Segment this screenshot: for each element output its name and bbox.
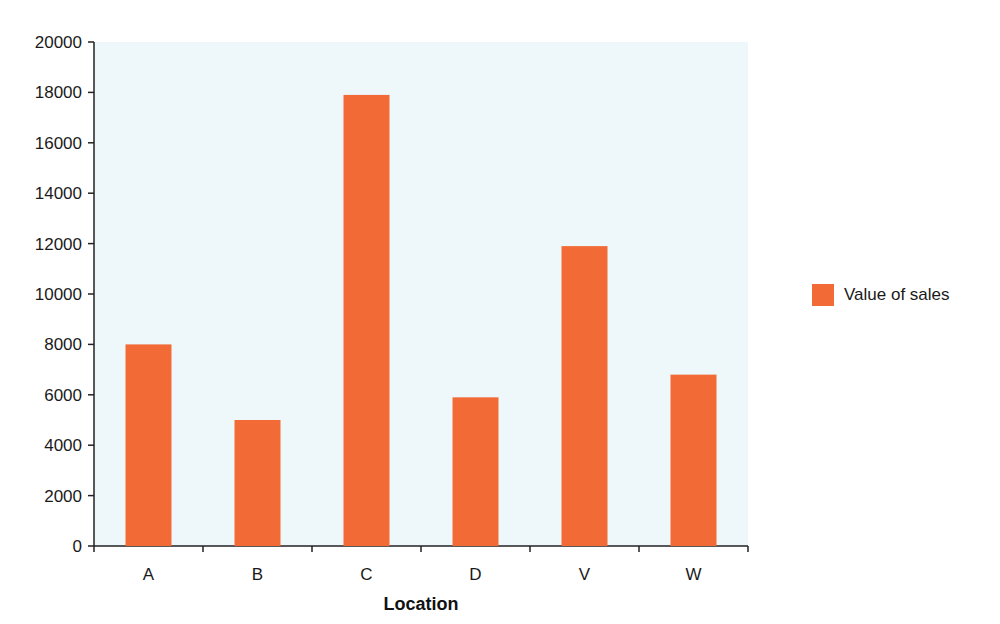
y-tick-label: 6000 [44, 386, 82, 405]
bar-w [671, 375, 717, 546]
x-tick-label: V [579, 565, 591, 584]
x-axis: ABCDVW [94, 546, 748, 584]
y-tick-label: 4000 [44, 436, 82, 455]
y-tick-label: 20000 [35, 33, 82, 52]
y-tick-label: 12000 [35, 235, 82, 254]
x-tick-label: B [252, 565, 263, 584]
y-tick-label: 14000 [35, 184, 82, 203]
bar-chart: 0200040006000800010000120001400016000180… [0, 0, 1000, 624]
bar-a [126, 344, 172, 546]
legend-swatch-value-of-sales [812, 284, 834, 306]
y-tick-label: 18000 [35, 83, 82, 102]
y-tick-label: 2000 [44, 487, 82, 506]
x-tick-label: C [360, 565, 372, 584]
y-tick-label: 16000 [35, 134, 82, 153]
bar-c [344, 95, 390, 546]
bar-v [562, 246, 608, 546]
y-tick-label: 8000 [44, 335, 82, 354]
bar-b [235, 420, 281, 546]
plot-area [94, 42, 748, 546]
y-tick-label: 0 [73, 537, 82, 556]
x-tick-label: D [469, 565, 481, 584]
y-tick-label: 10000 [35, 285, 82, 304]
x-axis-title: Location [384, 594, 459, 614]
legend-label: Value of sales [844, 285, 950, 305]
y-axis: 0200040006000800010000120001400016000180… [35, 33, 94, 556]
bar-d [453, 397, 499, 546]
x-tick-label: W [685, 565, 701, 584]
x-tick-label: A [143, 565, 155, 584]
legend: Value of sales [812, 284, 950, 306]
